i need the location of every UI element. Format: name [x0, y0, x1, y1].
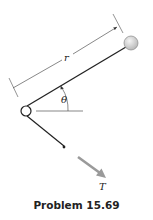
problem-figure: r θ T	[0, 0, 153, 220]
dimension-extension-right	[113, 14, 123, 33]
figure-caption: Problem 15.69	[0, 199, 153, 211]
string-to-ball	[27, 47, 126, 106]
label-theta: θ	[61, 94, 67, 105]
string-end	[63, 146, 66, 149]
dimension-r: r	[9, 14, 123, 97]
force-arrow-T: T	[78, 157, 107, 192]
dimension-line-right	[73, 27, 117, 54]
string-down	[27, 116, 64, 146]
angle-theta: θ	[61, 86, 69, 112]
ball	[124, 36, 138, 50]
label-r: r	[64, 52, 70, 63]
force-arrow-shaft	[78, 157, 100, 173]
angle-arrowhead	[61, 86, 64, 90]
pulley	[21, 106, 31, 116]
dimension-line-left	[13, 60, 62, 88]
label-T: T	[99, 181, 107, 192]
